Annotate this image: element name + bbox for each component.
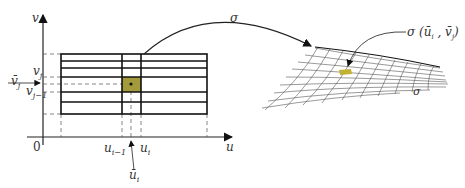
vbar-label: v̄j — [11, 74, 21, 90]
surface-highlighted-patch — [339, 69, 352, 75]
diagram-canvas: v u 0 vj v̄j vj−1 ui−1 ui ūi σ — [0, 0, 465, 188]
sample-point — [129, 82, 132, 85]
projection-lines — [43, 54, 207, 137]
vj-1-label: vj−1 — [26, 84, 47, 100]
point-label: σ (ūi , v̄j) — [407, 25, 459, 41]
ui-label: ui — [140, 141, 151, 157]
ubar-label: ūi — [129, 168, 140, 184]
origin-label: 0 — [33, 140, 41, 154]
u-axis-label: u — [226, 140, 234, 154]
mapping-arrow — [144, 22, 311, 54]
surface-mesh — [262, 47, 448, 110]
point-label-arrow — [348, 32, 406, 66]
ui-1-label: ui−1 — [104, 141, 126, 157]
vj-label: vj — [33, 64, 43, 80]
v-axis-label: v — [32, 11, 39, 25]
ubar-arrow — [131, 141, 134, 170]
surface-label: σ — [413, 85, 421, 98]
mapping-label: σ — [230, 11, 239, 25]
